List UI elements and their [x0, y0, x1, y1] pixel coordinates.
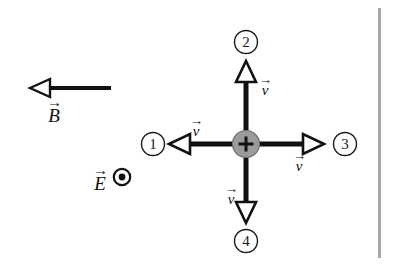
electric-field-label-symbol: E — [93, 174, 107, 193]
magnetic-field-label: → B — [47, 98, 61, 125]
velocity-arrow-1-head — [169, 134, 190, 154]
page-edge-rule — [378, 8, 381, 258]
option-label-3: 3 — [333, 132, 357, 156]
option-label-4: 4 — [234, 229, 258, 253]
magnetic-field-label-symbol: B — [47, 106, 61, 125]
velocity-arrow-3-head — [303, 134, 324, 154]
velocity-label-1: → v — [190, 117, 202, 139]
velocity-arrow-2-head — [236, 61, 256, 82]
option-label-2: 2 — [234, 30, 258, 54]
electric-field-dot — [119, 174, 126, 181]
physics-diagram-figure: 1 2 3 4 → B → E → v → v → v → v — [0, 0, 397, 268]
magnetic-field-arrow — [30, 79, 111, 97]
option-label-1: 1 — [141, 132, 165, 156]
velocity-label-3: → v — [293, 152, 305, 174]
positive-charge — [233, 131, 260, 158]
electric-field-out-of-page-icon — [114, 169, 130, 185]
electric-field-label: → E — [93, 166, 107, 193]
velocity-label-4: → v — [225, 185, 237, 207]
velocity-arrow-4-head — [236, 202, 256, 223]
velocity-label-2: → v — [259, 76, 271, 98]
